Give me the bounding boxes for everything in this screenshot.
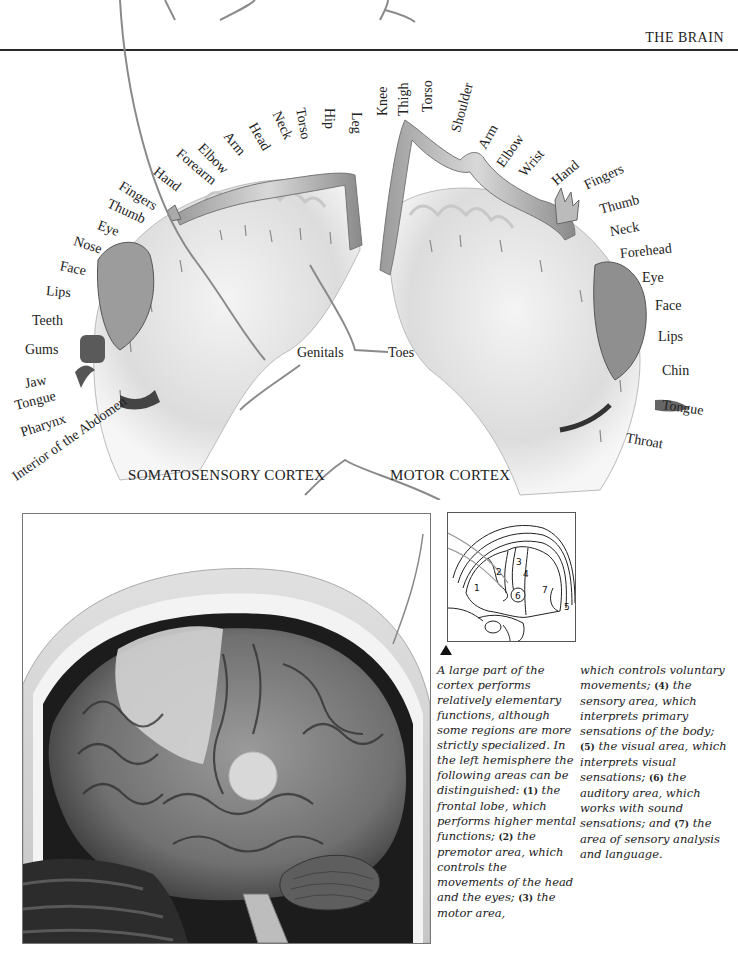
area-2-label: 2 — [496, 567, 502, 577]
area-3-label: 3 — [516, 557, 522, 567]
area-number: (2) — [499, 832, 514, 842]
area-number: (7) — [674, 819, 689, 829]
area-number: (3) — [518, 893, 533, 903]
area-6-label: 6 — [515, 591, 521, 601]
sensory-label-hip: Hip — [321, 108, 337, 129]
caption-text: which controls voluntary movements; — [580, 663, 725, 692]
brain-sagittal-image — [23, 514, 430, 943]
sensory-label-genitals: Genitals — [297, 345, 344, 361]
area-number: (1) — [523, 786, 538, 796]
area-number: (5) — [580, 742, 595, 752]
sensory-label-leg: Leg — [348, 112, 364, 134]
area-1-label: 1 — [474, 583, 480, 593]
area-7-label: 7 — [542, 585, 548, 595]
area-number: (6) — [649, 773, 664, 783]
motor-label-eye: Eye — [642, 270, 664, 286]
caption-text: A large part of the cortex performs rela… — [437, 663, 574, 797]
motor-label-face: Face — [655, 298, 681, 314]
motor-label-chin: Chin — [662, 363, 689, 379]
area-number: (4) — [654, 681, 669, 691]
sensory-label-gums: Gums — [25, 342, 58, 358]
caption-column-1: A large part of the cortex performs rela… — [437, 663, 577, 921]
motor-label-lips: Lips — [658, 329, 683, 345]
motor-label-thigh: Thigh — [396, 83, 412, 116]
area-5-label: 5 — [564, 602, 570, 612]
brain-illustration — [22, 513, 431, 944]
caption-column-2: which controls voluntary movements; (4) … — [580, 663, 730, 862]
somatosensory-cortex-title: SOMATOSENSORY CORTEX — [128, 467, 325, 484]
inset-area-diagram: 1 2 3 4 5 6 7 — [447, 512, 576, 642]
motor-cortex-title: MOTOR CORTEX — [390, 467, 510, 484]
caption-pointer-triangle-icon — [440, 645, 452, 655]
sensory-label-lips: Lips — [45, 283, 71, 301]
area-4-label: 4 — [523, 569, 529, 579]
motor-label-torso: Torso — [420, 80, 436, 112]
sensory-label-toes: Toes — [388, 345, 414, 361]
sensory-label-teeth: Teeth — [32, 313, 63, 329]
motor-label-knee: Knee — [375, 86, 391, 116]
